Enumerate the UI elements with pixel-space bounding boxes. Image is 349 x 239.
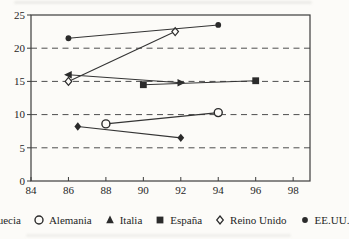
series-alemania [102, 109, 222, 128]
x-tick-label: 94 [213, 184, 225, 196]
chart-legend: SueciaAlemaniaItaliaEspañaReino UnidoEE.… [0, 208, 325, 232]
scan-artifact-bottom [26, 234, 291, 237]
series-reino-unido [65, 28, 178, 86]
data-point-marker [74, 122, 81, 130]
x-axis: 8486889092949698 [26, 177, 300, 196]
legend-label: EE.UU. [315, 214, 349, 226]
y-tick-label: 20 [14, 42, 26, 54]
legend-label: Italia [120, 214, 143, 226]
x-tick-label: 92 [175, 184, 186, 196]
circle-open-icon [33, 214, 45, 226]
legend-item-italia: Italia [104, 214, 143, 226]
data-point-marker [140, 81, 147, 88]
y-tick-label: 15 [14, 75, 26, 87]
x-tick-label: 96 [250, 184, 262, 196]
legend-item-alemania: Alemania [33, 214, 92, 226]
data-point-marker [66, 35, 72, 41]
x-tick-label: 90 [138, 184, 150, 196]
line-chart: 05101520258486889092949698 [0, 0, 325, 205]
legend-label: Reino Unido [230, 214, 287, 226]
x-tick-label: 88 [100, 184, 112, 196]
gridlines [31, 48, 310, 148]
data-point-marker [177, 134, 184, 142]
x-tick-label: 86 [63, 184, 75, 196]
plot-frame [31, 15, 310, 181]
legend-item-reino-unido: Reino Unido [214, 214, 287, 226]
legend-label: España [170, 214, 202, 226]
y-axis: 0510152025 [14, 9, 31, 187]
x-tick-label: 98 [288, 184, 300, 196]
diamond-open-icon [214, 214, 226, 226]
square-filled-icon [154, 214, 166, 226]
legend-label: Alemania [49, 214, 92, 226]
data-point-marker [65, 77, 72, 85]
y-tick-label: 10 [14, 108, 26, 120]
x-tick-label: 84 [26, 184, 38, 196]
circle-filled-icon [299, 214, 311, 226]
y-tick-label: 25 [14, 9, 26, 21]
y-tick-label: 5 [20, 142, 26, 154]
legend-item-espa-a: España [154, 214, 202, 226]
data-point-marker [102, 120, 110, 128]
series-ee-uu- [66, 22, 222, 41]
data-point-marker [215, 22, 221, 28]
legend-item-ee-uu-: EE.UU. [299, 214, 349, 226]
legend-label: Suecia [0, 214, 21, 226]
data-point-marker [214, 109, 222, 117]
data-point-marker [252, 77, 259, 84]
triangle-filled-icon [104, 214, 116, 226]
series-suecia [74, 122, 184, 142]
series-espa-a [140, 77, 259, 88]
legend-item-suecia: Suecia [0, 214, 21, 226]
